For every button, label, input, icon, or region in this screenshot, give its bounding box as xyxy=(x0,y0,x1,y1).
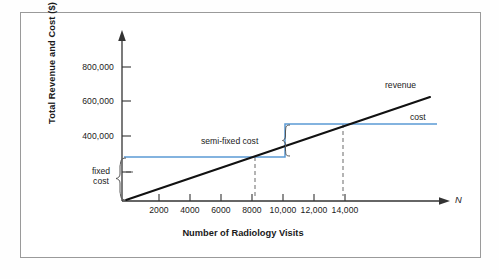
breakeven-dashed-lines xyxy=(255,124,343,196)
x-axis-variable-label: N xyxy=(455,194,462,205)
figure-canvas: Total Revenue and Cost ($) 800,000 600,0… xyxy=(0,0,499,279)
x-axis-ticks xyxy=(159,194,345,201)
series-revenue xyxy=(126,97,430,200)
x-tick-label-14000: 14,000 xyxy=(323,205,367,215)
series-cost xyxy=(124,124,437,157)
cost-series-label: cost xyxy=(410,112,426,122)
fixed-cost-label-line2: cost xyxy=(93,176,109,186)
fixed-cost-label-line1: fixed xyxy=(92,166,110,176)
semi-fixed-cost-brace xyxy=(283,125,291,156)
semi-fixed-cost-label: semi-fixed cost xyxy=(201,136,258,146)
fixed-cost-label: fixed cost xyxy=(84,166,118,186)
x-axis-title: Number of Radiology Visits xyxy=(118,228,368,238)
x-axis xyxy=(122,197,450,205)
y-tick-label-800000: 800,000 xyxy=(50,62,114,72)
revenue-series-label: revenue xyxy=(385,80,416,90)
y-tick-label-600000: 600,000 xyxy=(50,96,114,106)
y-tick-label-400000: 400,000 xyxy=(50,131,114,141)
